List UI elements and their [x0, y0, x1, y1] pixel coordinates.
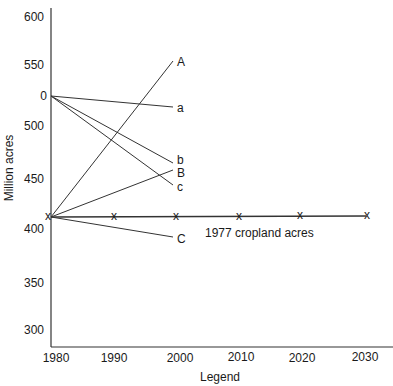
x-tick-2030: 2030	[352, 350, 379, 364]
marker-x-2000: x	[173, 209, 179, 223]
label-c: c	[177, 180, 183, 194]
line-b	[51, 96, 173, 163]
y-tick-600: 600	[24, 10, 44, 24]
line-a	[51, 96, 173, 107]
marker-x-1980: x	[45, 209, 51, 223]
x-tick-2000: 2000	[167, 351, 194, 365]
marker-x-2030: x	[364, 208, 370, 222]
label-B: B	[177, 166, 185, 180]
marker-x-2010: x	[236, 209, 242, 223]
line-c	[51, 96, 173, 185]
label-C: C	[177, 232, 186, 246]
y-tick-500: 500	[24, 119, 44, 133]
y-tick-350: 350	[24, 276, 44, 290]
chart: 600 550 0 500 450 400 350 300 1980 1990 …	[0, 0, 393, 386]
y-tick-400: 400	[24, 222, 44, 236]
y-axis-label: Million acres	[2, 135, 16, 202]
label-a: a	[177, 101, 184, 115]
label-1977-cropland: 1977 cropland acres	[205, 226, 314, 240]
y-tick-0: 0	[40, 89, 47, 103]
marker-x-2020: x	[297, 208, 303, 222]
label-b: b	[177, 153, 184, 167]
x-tick-1980: 1980	[43, 351, 70, 365]
line-1977-cropland	[51, 216, 366, 217]
x-tick-2010: 2010	[228, 350, 255, 364]
x-tick-1990: 1990	[101, 351, 128, 365]
y-tick-300: 300	[24, 323, 44, 337]
y-tick-450: 450	[24, 172, 44, 186]
marker-x-1990: x	[111, 209, 117, 223]
y-tick-550: 550	[24, 58, 44, 72]
x-axis-label: Legend	[200, 370, 240, 384]
label-A: A	[177, 55, 185, 69]
x-tick-2020: 2020	[289, 351, 316, 365]
